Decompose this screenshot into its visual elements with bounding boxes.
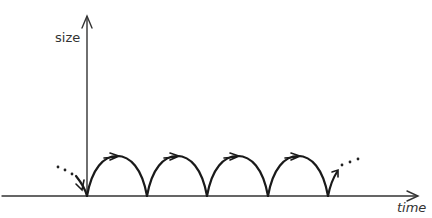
- arch-1: [87, 156, 147, 196]
- y-axis-label: size: [55, 30, 80, 45]
- growth-arches: [76, 156, 337, 196]
- direction-arrows: [76, 153, 338, 190]
- arch-2: [147, 156, 207, 196]
- time-axis: [2, 191, 418, 201]
- arch-3: [207, 156, 268, 196]
- arch-4: [268, 156, 328, 196]
- arch-partial-right: [328, 172, 337, 196]
- size-axis: [82, 16, 92, 196]
- x-axis-label: time: [397, 200, 426, 215]
- continuation-dots: [57, 158, 360, 176]
